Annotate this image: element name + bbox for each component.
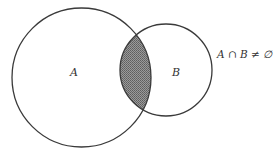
set-b-label: B [171,66,180,79]
intersection-annotation: A ∩ B ≠ ∅ [216,48,273,60]
venn-diagram: A B A ∩ B ≠ ∅ [0,0,280,157]
set-a-label: A [69,66,78,79]
